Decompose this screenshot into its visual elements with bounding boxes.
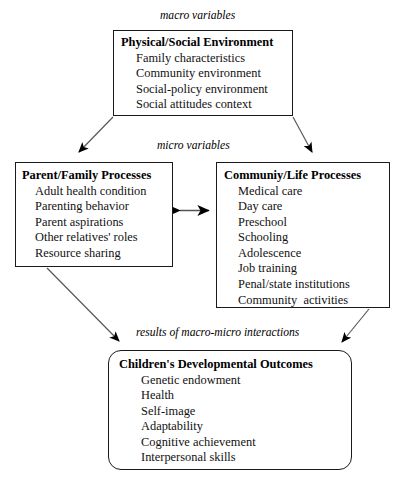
list-item: Adolescence: [238, 246, 389, 262]
conceptual-model-diagram: macro variables Physical/Social Environm…: [0, 0, 401, 487]
box-physical-social-environment: Physical/Social Environment Family chara…: [113, 30, 293, 116]
list-item: Interpersonal skills: [141, 450, 351, 466]
arrow-community-to-outcomes: [342, 309, 369, 342]
list-item: Social-policy environment: [136, 82, 292, 98]
list-community-life-processes: Medical care Day care Preschool Schoolin…: [224, 184, 389, 309]
arrow-macro-to-parent: [79, 117, 113, 152]
list-item: Schooling: [238, 230, 389, 246]
list-childrens-developmental-outcomes: Genetic endowment Health Self-image Adap…: [119, 373, 351, 467]
list-item: Medical care: [238, 184, 389, 200]
arrow-macro-to-community: [293, 117, 312, 152]
list-item: Family characteristics: [136, 51, 292, 67]
box-community-life-processes: Communiy/Life Processes Medical care Day…: [216, 162, 390, 308]
box-childrens-developmental-outcomes: Children's Developmental Outcomes Geneti…: [108, 350, 352, 470]
list-item: Social attitudes context: [136, 97, 292, 113]
list-item: Parent aspirations: [35, 215, 172, 231]
list-item: Job training: [238, 261, 389, 277]
box-title-community-life-processes: Communiy/Life Processes: [224, 168, 389, 184]
list-item: Parenting behavior: [35, 199, 172, 215]
caption-micro-variables: micro variables: [157, 139, 230, 152]
list-item: Penal/state institutions: [238, 277, 389, 293]
box-title-physical-social-environment: Physical/Social Environment: [121, 35, 292, 51]
list-item: Adaptability: [141, 419, 351, 435]
caption-macro-variables: macro variables: [160, 9, 235, 22]
list-parent-family-processes: Adult health condition Parenting behavio…: [22, 184, 172, 262]
list-item: Adult health condition: [35, 184, 172, 200]
list-item: Health: [141, 388, 351, 404]
list-item: Genetic endowment: [141, 373, 351, 389]
arrow-parent-to-outcomes: [47, 268, 119, 341]
list-physical-social-environment: Family characteristics Community environ…: [121, 51, 292, 113]
box-title-childrens-developmental-outcomes: Children's Developmental Outcomes: [119, 357, 351, 373]
list-item: Self-image: [141, 404, 351, 420]
box-parent-family-processes: Parent/Family Processes Adult health con…: [15, 162, 173, 267]
box-title-parent-family-processes: Parent/Family Processes: [22, 168, 172, 184]
list-item: Community activities: [238, 293, 389, 309]
list-item: Cognitive achievement: [141, 435, 351, 451]
list-item: Community environment: [136, 66, 292, 82]
list-item: Resource sharing: [35, 246, 172, 262]
caption-macro-micro-interactions: results of macro-micro interactions: [136, 326, 299, 339]
list-item: Day care: [238, 199, 389, 215]
list-item: Other relatives' roles: [35, 230, 172, 246]
list-item: Preschool: [238, 215, 389, 231]
